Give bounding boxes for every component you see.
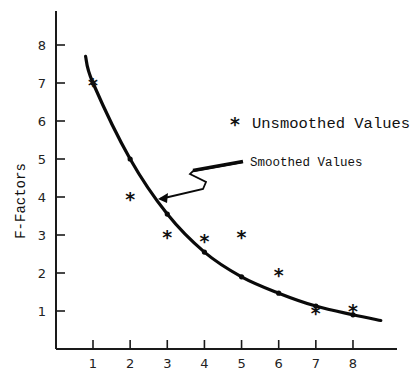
x-tick-label: 6	[275, 356, 283, 371]
y-axis-ticks: 12345678	[38, 38, 65, 319]
y-tick-label: 8	[38, 38, 46, 53]
x-tick-label: 1	[89, 356, 97, 371]
x-tick-label: 5	[237, 356, 245, 371]
legend: * Unsmoothed Values	[229, 113, 410, 135]
y-tick-label: 4	[38, 190, 46, 205]
y-tick-label: 6	[38, 114, 46, 129]
chart-canvas: 12345678 12345678 F-Factors ******** * U…	[0, 0, 412, 383]
y-axis-label: F-Factors	[13, 163, 29, 239]
legend-label: Unsmoothed Values	[252, 115, 410, 133]
x-tick-label: 2	[126, 356, 134, 371]
smoothed-point	[239, 274, 244, 279]
asterisk-icon: *	[310, 302, 321, 324]
asterisk-icon: *	[347, 300, 358, 322]
y-tick-label: 1	[38, 304, 46, 319]
x-tick-label: 3	[163, 356, 171, 371]
y-tick-label: 3	[38, 228, 46, 243]
asterisk-icon: *	[124, 188, 135, 210]
smoothed-annotation: Smoothed Values	[158, 156, 363, 203]
x-tick-label: 4	[200, 356, 208, 371]
asterisk-icon: *	[162, 226, 173, 248]
y-tick-label: 7	[38, 76, 46, 91]
asterisk-icon: *	[273, 264, 284, 286]
x-tick-label: 8	[349, 356, 357, 371]
asterisk-icon: *	[87, 74, 98, 96]
annotation-label: Smoothed Values	[250, 156, 363, 170]
x-tick-label: 7	[312, 356, 320, 371]
smoothed-point	[165, 212, 170, 217]
legend-asterisk-icon: *	[229, 113, 240, 135]
x-axis-ticks: 12345678	[89, 340, 357, 371]
smoothed-point	[276, 291, 281, 296]
asterisk-icon: *	[199, 230, 210, 252]
y-tick-label: 5	[38, 152, 46, 167]
unsmoothed-markers: ********	[87, 74, 358, 324]
smoothed-point	[128, 156, 133, 161]
y-tick-label: 2	[38, 266, 46, 281]
asterisk-icon: *	[236, 226, 247, 248]
